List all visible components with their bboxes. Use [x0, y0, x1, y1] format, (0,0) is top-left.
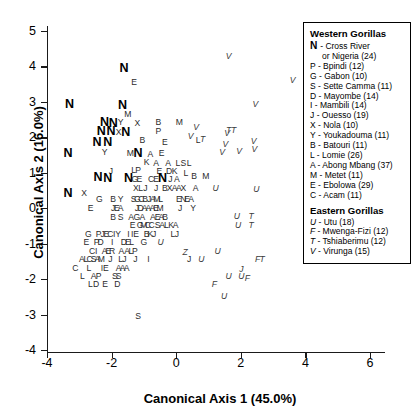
legend-label: - Ebolowa (29): [318, 180, 373, 190]
canonical-variate-scatter-plot: -4-3-2-1012345 -4-20246 Canonical Axis 2…: [0, 0, 419, 413]
data-point-N: N: [134, 147, 143, 160]
data-point-N: N: [93, 171, 102, 184]
legend-eastern-title: Eastern Gorillas: [310, 205, 406, 217]
data-point-X: X: [180, 184, 186, 193]
data-point-Y: Y: [102, 148, 108, 157]
data-point-E: E: [103, 264, 109, 273]
data-point-M: M: [202, 171, 209, 180]
legend-key-D: D: [310, 91, 319, 101]
legend-label: - Sette Camma (11): [318, 81, 392, 91]
data-point-L: L: [184, 169, 189, 178]
data-point-L: L: [187, 159, 192, 168]
legend-label: - Virunga (15): [318, 246, 370, 256]
x-tick-label: 0: [164, 357, 188, 370]
data-point-S: S: [135, 312, 141, 321]
data-point-V: V: [193, 122, 199, 131]
data-point-N: N: [93, 135, 102, 148]
legend-key-G: G: [310, 71, 319, 81]
x-tick-label: -4: [35, 357, 59, 370]
data-point-Y: Y: [190, 203, 196, 212]
legend-key-U: U: [310, 217, 319, 227]
legend-label: - Mambili (14): [315, 100, 367, 110]
legend-western-items: N - Cross Riveror Nigeria (24)P - Bpindi…: [310, 41, 406, 201]
legend-label: - Ouesso (19): [317, 110, 369, 120]
legend-key-V: V: [310, 246, 318, 256]
y-axis-line: [47, 26, 48, 353]
legend-label: - Mayombe (14): [319, 91, 379, 101]
legend-key-S: S: [310, 81, 318, 91]
legend-label: - Nola (10): [318, 120, 358, 130]
legend-label: - Lomie (26): [317, 150, 363, 160]
data-point-T: T: [200, 135, 205, 144]
legend-key-B: B: [310, 140, 318, 150]
data-point-K: K: [144, 158, 150, 167]
legend-key-A: A: [310, 160, 318, 170]
legend-item-C: C - Acam (11): [310, 191, 406, 201]
data-point-U: U: [235, 221, 241, 230]
data-point-U: U: [253, 184, 259, 193]
legend-label: - Gabon (10): [319, 71, 367, 81]
y-tick-label: -4: [14, 344, 36, 357]
legend-key-L: L: [310, 150, 317, 160]
y-tick-label: 5: [14, 25, 36, 38]
legend-key-T: T: [310, 236, 318, 246]
legend-eastern-items: U - Utu (18)F - Mwenga-Fizi (12)T - Tshi…: [310, 218, 406, 258]
legend-label: - Abong Mbang (37): [318, 160, 393, 170]
data-point-G: G: [141, 238, 148, 247]
y-tick-mark: [41, 31, 47, 32]
data-point-E: E: [88, 203, 94, 212]
data-point-E: E: [159, 149, 165, 158]
data-point-E: E: [131, 78, 137, 87]
y-tick-mark: [41, 315, 47, 316]
data-point-V: V: [219, 148, 225, 157]
legend-label: - Youkadouma (11): [318, 130, 389, 140]
data-point-V: V: [236, 147, 242, 156]
data-point-N: N: [158, 171, 167, 184]
x-tick-label: 6: [358, 357, 382, 370]
data-point-V: V: [252, 99, 258, 108]
data-point-S: S: [118, 212, 124, 221]
data-point-C: C: [72, 264, 78, 273]
data-point-U: U: [212, 183, 218, 192]
data-point-F: F: [245, 274, 250, 283]
data-point-E: E: [162, 137, 168, 146]
data-point-J: J: [133, 255, 137, 264]
x-tick-label: 4: [293, 357, 317, 370]
legend-label: - Tshiaberimu (12): [318, 236, 386, 246]
data-point-T: T: [259, 255, 264, 264]
legend-key-P: P: [310, 61, 318, 71]
legend-key-X: X: [310, 120, 318, 130]
data-point-U: U: [214, 247, 220, 256]
data-point-N: N: [119, 62, 128, 75]
legend-item-V: V - Virunga (15): [310, 247, 406, 257]
x-axis-line: [47, 352, 385, 353]
data-point-A: A: [124, 264, 130, 273]
legend-key-E: E: [310, 180, 318, 190]
y-axis-title: Canonical Axis 2 (16.0%): [31, 63, 46, 303]
data-point-B: B: [139, 136, 145, 145]
data-point-M: M: [157, 203, 164, 212]
legend-label: - Utu (18): [319, 217, 355, 227]
legend-box: Western Gorillas N - Cross Riveror Niger…: [303, 22, 411, 264]
data-point-J: J: [154, 184, 158, 193]
data-point-J: J: [143, 184, 147, 193]
data-point-V: V: [290, 76, 296, 85]
data-point-U: U: [198, 255, 204, 264]
data-point-U: U: [225, 272, 231, 281]
data-point-M: M: [124, 110, 131, 119]
data-point-F: F: [212, 280, 217, 289]
legend-label: - Cross River: [320, 41, 370, 51]
legend-key-N: N: [310, 40, 320, 51]
data-point-B: B: [110, 212, 116, 221]
legend-label: - Mwenga-Fizi (12): [317, 226, 388, 236]
data-point-N: N: [65, 97, 74, 110]
data-point-U: U: [221, 292, 227, 301]
data-point-L: L: [80, 272, 85, 281]
data-point-T: T: [248, 221, 253, 230]
data-point-D: D: [93, 280, 99, 289]
y-tick-label: -3: [14, 309, 36, 322]
legend-key-Y: Y: [310, 130, 318, 140]
x-tick-label: -2: [100, 357, 124, 370]
x-tick-label: 2: [229, 357, 253, 370]
data-point-X: X: [81, 189, 87, 198]
